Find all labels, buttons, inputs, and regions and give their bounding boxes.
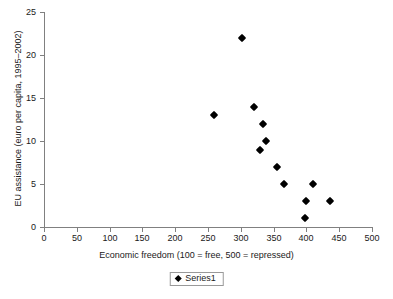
- x-axis-tick-label: 200: [160, 234, 190, 243]
- x-axis-tick: [44, 228, 45, 232]
- x-axis-tick-label: 150: [127, 234, 157, 243]
- x-axis-tick-label: 100: [95, 234, 125, 243]
- legend-item-label: Series1: [185, 274, 216, 283]
- x-axis-tick: [339, 228, 340, 232]
- x-axis-tick-label: 300: [226, 234, 256, 243]
- plot-area: [44, 12, 372, 227]
- chart-legend: Series1: [169, 272, 224, 286]
- x-axis-tick-label: 350: [259, 234, 289, 243]
- x-axis-tick: [175, 228, 176, 232]
- scatter-chart: 0510152025 05010015020025030035040045050…: [0, 0, 393, 299]
- x-axis-tick: [306, 228, 307, 232]
- x-axis-tick: [208, 228, 209, 232]
- x-axis-tick-label: 0: [29, 234, 59, 243]
- x-axis-tick: [110, 228, 111, 232]
- x-axis-tick: [274, 228, 275, 232]
- diamond-marker-icon: [174, 275, 181, 282]
- y-axis-title: EU assistance (euro per capita, 1995–200…: [14, 9, 23, 229]
- x-axis-tick: [372, 228, 373, 232]
- x-axis-tick-label: 500: [357, 234, 387, 243]
- x-axis-tick-label: 250: [193, 234, 223, 243]
- x-axis-tick: [142, 228, 143, 232]
- x-axis-tick-label: 50: [62, 234, 92, 243]
- x-axis-tick: [241, 228, 242, 232]
- x-axis-tick-label: 450: [324, 234, 354, 243]
- x-axis-title: Economic freedom (100 = free, 500 = repr…: [0, 251, 393, 260]
- x-axis-tick-label: 400: [291, 234, 321, 243]
- x-axis-tick: [77, 228, 78, 232]
